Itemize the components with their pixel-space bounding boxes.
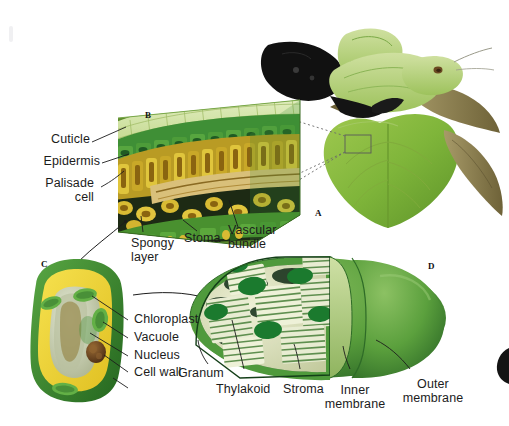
label-nucleus: Nucleus (134, 349, 180, 363)
connector-b-to-c (78, 220, 127, 262)
label-cell-wall: Cell wall (134, 366, 181, 380)
label-epidermis: Epidermis (0, 155, 100, 169)
label-palisade-cell-line2: cell (6, 191, 94, 205)
label-thylakoid: Thylakoid (216, 383, 270, 397)
label-chloroplast: Chloroplast (134, 313, 198, 327)
label-stroma: Stroma (283, 383, 324, 397)
panel-c-plant-cell (31, 259, 124, 402)
label-palisade-cell-line1: Palisade (6, 177, 94, 191)
label-vacuole: Vacuole (134, 331, 179, 345)
label-inner-membrane-line1: Inner (322, 384, 388, 398)
label-inner-membrane-line2: membrane (310, 398, 400, 412)
label-stoma: Stoma (184, 232, 221, 246)
panel-id-c: C (41, 259, 48, 269)
figure-canvas: Cuticle Epidermis Palisade cell Spongy l… (0, 0, 509, 426)
label-outer-membrane-line1: Outer (400, 378, 466, 392)
label-vascular-bundle-line2: bundle (228, 238, 266, 252)
panel-id-b: B (145, 110, 151, 120)
panel-d-chloroplast (190, 250, 446, 380)
label-spongy-layer-line1: Spongy (131, 237, 174, 251)
label-vascular-bundle-line1: Vascular (228, 224, 277, 238)
label-outer-membrane-line2: membrane (388, 392, 478, 406)
nucleus-shape (86, 341, 106, 363)
page-edge-artifact (494, 344, 509, 384)
figure-artwork (0, 0, 509, 426)
label-spongy-layer-line2: layer (131, 251, 159, 265)
label-granum: Granum (178, 367, 224, 381)
panel-id-a: A (315, 208, 322, 218)
panel-id-d: D (428, 261, 435, 271)
label-cuticle: Cuticle (6, 133, 90, 147)
